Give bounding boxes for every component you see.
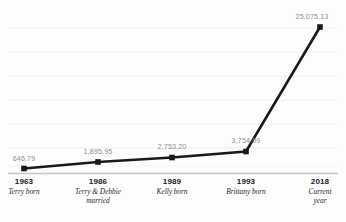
x-tick-year-1963: 1963 [8,177,39,187]
x-tick-note-1989-line1: Kelly born [157,188,188,197]
value-label-1993: 3,754.09 [232,136,261,145]
x-tick-1963: 1963 Terry born [8,177,39,197]
x-tick-note-1963: Terry born [8,188,39,197]
x-tick-note-2018: Current year [309,188,332,205]
x-tick-note-2018-line2: year [309,197,332,206]
value-label-1986: 1,895.95 [84,147,113,156]
x-tick-note-1986: Terry & Debbie married [75,188,121,205]
x-tick-1989: 1989 Kelly born [157,177,188,197]
x-tick-year-1993: 1993 [226,177,265,187]
line-chart: 646.79 1,895.95 2,753.20 3,754.09 25,075… [0,0,346,222]
value-label-1963: 646.79 [13,154,36,163]
x-tick-year-1986: 1986 [75,177,121,187]
x-tick-year-1989: 1989 [157,177,188,187]
x-tick-1986: 1986 Terry & Debbie married [75,177,121,205]
value-label-2018: 25,075.13 [296,12,329,21]
x-tick-1993: 1993 Brittany born [226,177,265,197]
plot-area: 646.79 1,895.95 2,753.20 3,754.09 25,075… [0,0,346,222]
x-tick-note-1993-line1: Brittany born [226,188,265,197]
x-tick-note-1986-line2: married [75,197,121,206]
x-tick-note-1993: Brittany born [226,188,265,197]
x-tick-2018: 2018 Current year [309,177,332,205]
x-tick-note-1989: Kelly born [157,188,188,197]
x-tick-year-2018: 2018 [309,177,332,187]
x-tick-note-1963-line1: Terry born [8,188,39,197]
value-label-1989: 2,753.20 [158,142,187,151]
